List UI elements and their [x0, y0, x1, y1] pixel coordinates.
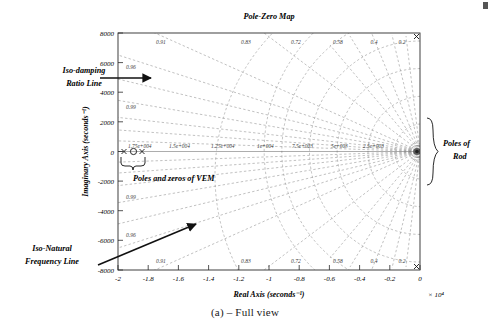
xtick-label: -1	[266, 275, 272, 283]
damping-labels-top: 0.91 0.83 0.72 0.58 0.4 0.2	[156, 39, 406, 45]
x-axis-label: Real Axis (seconds⁻¹)	[233, 290, 305, 299]
svg-text:0.72: 0.72	[291, 258, 301, 264]
xtick-label: -0.8	[294, 275, 306, 283]
svg-text:0.99: 0.99	[126, 194, 136, 200]
chart-title: Pole-Zero Map	[243, 12, 294, 21]
pole-zero-map-figure: Pole-Zero Map	[0, 0, 490, 306]
xtick-label: -2	[115, 275, 121, 283]
svg-text:7.5e+003: 7.5e+003	[292, 143, 313, 149]
rod-pole-cluster	[409, 143, 426, 160]
iso-natural-label-line1: Iso-Natural	[31, 244, 72, 253]
vem-brace	[121, 157, 145, 170]
natural-frequency-labels: 1.75e+004 1.5e+004 1.25e+004 1e+004 7.5e…	[128, 143, 384, 149]
svg-text:1.25e+004: 1.25e+004	[211, 143, 235, 149]
xtick-label: -1.8	[143, 275, 155, 283]
rod-label-line2: Rod	[452, 152, 468, 161]
annotation-iso-damping: Iso-damping Ratio Line	[62, 66, 151, 88]
svg-text:1.5e+004: 1.5e+004	[169, 143, 190, 149]
rod-brace	[427, 118, 438, 185]
svg-text:0.58: 0.58	[333, 39, 343, 45]
svg-text:0.83: 0.83	[241, 39, 251, 45]
damping-labels-bottom: 0.91 0.83 0.72 0.58 0.4 0.2	[156, 258, 406, 264]
xtick-label: -0.2	[384, 275, 396, 283]
x-axis: -2 -1.8 -1.6 -1.4 -1.2 -1 -0.8 -0.6 -0.4…	[115, 265, 422, 283]
x-tickmarks	[118, 265, 420, 270]
svg-text:0.83: 0.83	[241, 258, 251, 264]
ytick-label: 4000	[100, 89, 115, 97]
figure-page: Pole-Zero Map	[0, 0, 490, 336]
xtick-label: -1.6	[173, 275, 185, 283]
xtick-label: -1.4	[203, 275, 215, 283]
svg-text:5e+003: 5e+003	[331, 143, 348, 149]
svg-text:0.4: 0.4	[371, 39, 378, 45]
y-tickmarks	[118, 33, 123, 270]
xtick-label: -1.2	[233, 275, 245, 283]
svg-text:1.75e+004: 1.75e+004	[128, 143, 152, 149]
ytick-label: -8000	[98, 267, 115, 275]
svg-text:0.2: 0.2	[399, 258, 406, 264]
ytick-label: -6000	[98, 237, 115, 245]
damping-labels-lower-left: 0.99 0.96	[126, 194, 136, 238]
svg-text:0.91: 0.91	[156, 39, 166, 45]
ytick-label: 8000	[100, 30, 115, 38]
iso-damping-label-line2: Ratio Line	[65, 79, 102, 88]
svg-text:0.96: 0.96	[126, 232, 136, 238]
page-corner-mark	[483, 2, 488, 9]
svg-text:0.58: 0.58	[333, 258, 343, 264]
ytick-label: -4000	[98, 208, 115, 216]
x-axis-multiplier: × 10⁴	[428, 291, 444, 299]
svg-text:0.4: 0.4	[371, 258, 378, 264]
figure-caption: (a) – Full view	[0, 306, 490, 318]
svg-text:1e+004: 1e+004	[257, 143, 274, 149]
svg-text:2.5e+003: 2.5e+003	[363, 143, 384, 149]
svg-text:0.72: 0.72	[291, 39, 301, 45]
xtick-label: -0.4	[354, 275, 366, 283]
svg-text:0.99: 0.99	[126, 104, 136, 110]
iso-natural-label-line2: Frequency Line	[24, 257, 79, 266]
ytick-label: 0	[111, 149, 115, 157]
annotation-vem: Poles and zeros of VEM	[121, 157, 215, 183]
svg-text:0.2: 0.2	[399, 39, 406, 45]
svg-text:0.96: 0.96	[126, 64, 136, 70]
iso-damping-label-line1: Iso-damping	[62, 66, 106, 75]
ytick-label: -2000	[98, 178, 115, 186]
xtick-label: 0	[418, 275, 422, 283]
vem-label: Poles and zeros of VEM	[133, 174, 215, 183]
xtick-label: -0.6	[324, 275, 336, 283]
y-axis-label: Imaginary Axis (seconds⁻¹)	[81, 106, 90, 198]
annotation-rod: Poles of Rod	[427, 118, 471, 185]
rod-label-line1: Poles of	[443, 139, 471, 148]
ytick-label: 2000	[100, 119, 115, 127]
damping-labels-left: 0.96 0.99	[126, 64, 136, 110]
svg-text:0.91: 0.91	[156, 258, 166, 264]
